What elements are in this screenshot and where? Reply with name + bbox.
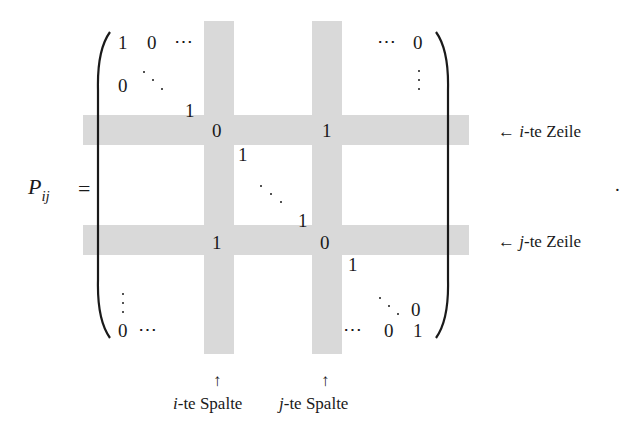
- ddots-bottom-right-2: [388, 305, 390, 307]
- matrix-subscript: ij: [41, 188, 49, 204]
- entry-jj: 0: [320, 233, 330, 252]
- vdots-top-right: [418, 70, 420, 72]
- left-parenthesis: [92, 30, 112, 340]
- equals-sign: =: [78, 178, 90, 200]
- ddots-center: [260, 185, 262, 187]
- ellipsis-last-left: ⋯: [138, 320, 157, 339]
- entry-r1c1: 1: [118, 33, 128, 52]
- ddots-center-3: [280, 201, 282, 203]
- trailing-period: .: [615, 175, 620, 194]
- entry-second-last-last: 0: [411, 300, 421, 319]
- entry-diag-before-j: 1: [298, 211, 308, 230]
- entry-last-second-last: 0: [384, 321, 394, 340]
- ellipsis-r1-left: ⋯: [174, 32, 193, 51]
- ellipsis-last-right: ⋯: [343, 320, 362, 339]
- vdots-top-right-2: [418, 79, 420, 81]
- row-j-highlight: [83, 225, 469, 255]
- ddots-top-left: [143, 71, 145, 73]
- ddots-top-left-2: [152, 79, 154, 81]
- entry-r1c2: 0: [147, 33, 157, 52]
- row-i-label: ← i-te Zeile: [498, 123, 581, 140]
- row-i-highlight: [83, 115, 469, 145]
- entry-diag-after-j: 1: [348, 255, 358, 274]
- vdots-top-right-3: [418, 88, 420, 90]
- ddots-top-left-3: [161, 88, 163, 90]
- entry-ji: 1: [212, 233, 222, 252]
- vdots-bottom-left-2: [122, 302, 124, 304]
- ddots-bottom-right-3: [397, 313, 399, 315]
- column-j-label: j-te Spalte: [279, 395, 348, 412]
- vdots-bottom-left-3: [122, 311, 124, 313]
- up-arrow-icon: ↑: [321, 372, 330, 389]
- ddots-bottom-right: [379, 297, 381, 299]
- left-arrow-icon: ←: [498, 232, 515, 251]
- row-j-label: ← j-te Zeile: [498, 233, 581, 250]
- entry-diag-before-i: 1: [185, 101, 195, 120]
- column-i-label: i-te Spalte: [173, 395, 242, 412]
- column-i-highlight: [204, 21, 234, 354]
- entry-ij: 1: [322, 121, 332, 140]
- entry-r2c1: 0: [118, 76, 128, 95]
- entry-last-first: 0: [118, 321, 128, 340]
- right-parenthesis: [434, 30, 454, 340]
- left-arrow-icon: ←: [498, 122, 515, 141]
- entry-last-last: 1: [413, 321, 423, 340]
- entry-diag-after-i: 1: [238, 145, 248, 164]
- matrix-name: Pij: [28, 176, 50, 202]
- ellipsis-r1-right: ⋯: [377, 32, 396, 51]
- entry-r1-last: 0: [413, 33, 423, 52]
- up-arrow-icon: ↑: [213, 372, 222, 389]
- ddots-center-2: [270, 193, 272, 195]
- vdots-bottom-left: [122, 293, 124, 295]
- entry-ii: 0: [212, 121, 222, 140]
- column-j-highlight: [312, 21, 342, 354]
